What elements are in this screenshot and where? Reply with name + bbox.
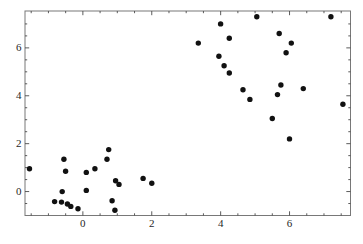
data-point (106, 147, 111, 152)
data-point (59, 199, 64, 204)
x-tick-label: 0 (80, 217, 86, 229)
data-point (254, 14, 259, 19)
data-point (149, 181, 154, 186)
data-point (140, 176, 145, 181)
data-point (247, 97, 252, 102)
y-tick-label: 0 (16, 185, 22, 197)
data-point (61, 157, 66, 162)
data-point (216, 54, 221, 59)
data-point (109, 198, 114, 203)
data-point (289, 40, 294, 45)
scatter-plot-figure: 02460246 (0, 0, 363, 244)
data-point (68, 204, 73, 209)
data-point (196, 40, 201, 45)
data-point (227, 70, 232, 75)
data-point (104, 157, 109, 162)
data-point (116, 182, 121, 187)
data-point (84, 170, 89, 175)
data-point (240, 87, 245, 92)
data-point (75, 206, 80, 211)
y-tick-label: 4 (16, 89, 22, 101)
data-point (301, 86, 306, 91)
data-point (340, 102, 345, 107)
data-point (112, 208, 117, 213)
data-point (287, 136, 292, 141)
data-point (283, 50, 288, 55)
x-tick-label: 4 (218, 217, 224, 229)
y-tick-label: 6 (16, 41, 22, 53)
x-tick-label: 2 (149, 217, 155, 229)
data-point (84, 188, 89, 193)
data-point (277, 31, 282, 36)
data-point (218, 21, 223, 26)
x-tick-label: 6 (287, 217, 293, 229)
data-point (52, 199, 57, 204)
data-point (92, 166, 97, 171)
data-point (227, 36, 232, 41)
plot-frame (25, 11, 351, 216)
plot-canvas: 02460246 (0, 0, 363, 244)
data-point (270, 116, 275, 121)
data-point (221, 63, 226, 68)
data-point (278, 82, 283, 87)
data-point (63, 169, 68, 174)
data-point (275, 92, 280, 97)
data-point (328, 14, 333, 19)
data-point (27, 166, 32, 171)
y-tick-label: 2 (16, 137, 22, 149)
data-point (60, 189, 65, 194)
